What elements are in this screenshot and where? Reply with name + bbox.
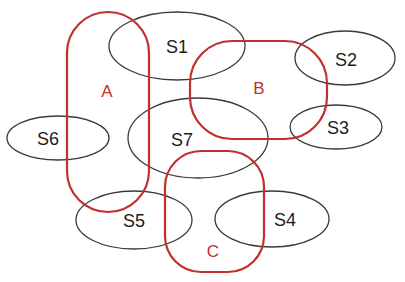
set-grouping-diagram: S1 S2 S3 S4 S5 S6 S7 A B C xyxy=(0,0,405,282)
set-s6-label: S6 xyxy=(37,129,59,149)
set-s4-label: S4 xyxy=(274,210,296,230)
group-c-label: C xyxy=(207,242,219,261)
set-s4-ellipse xyxy=(215,191,329,247)
set-s2-label: S2 xyxy=(335,50,357,70)
group-b-label: B xyxy=(253,79,264,98)
set-s5-label: S5 xyxy=(123,211,145,231)
set-s1-label: S1 xyxy=(166,37,188,57)
set-s7-label: S7 xyxy=(171,130,193,150)
group-a-outline xyxy=(67,12,149,212)
group-a-label: A xyxy=(101,82,113,101)
set-s3-label: S3 xyxy=(327,118,349,138)
